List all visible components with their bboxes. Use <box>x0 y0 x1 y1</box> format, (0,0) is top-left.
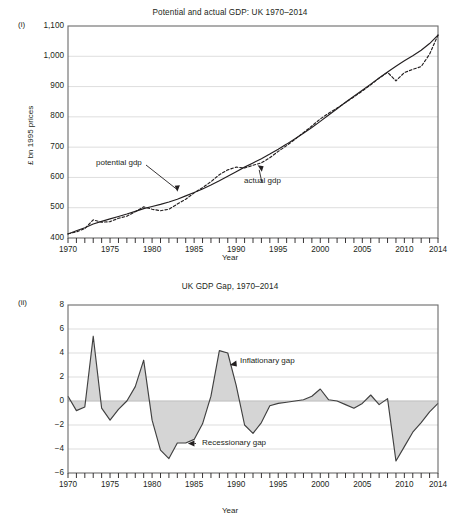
chart-i-annotation-actual-gdp: actual gdp <box>244 176 281 185</box>
chart-i-ytick-900: 900 <box>22 81 64 90</box>
chart-i-xtick-2000: 2000 <box>302 245 338 254</box>
chart-ii-ytick-0: 0 <box>24 396 64 405</box>
chart-ii-xtick-2005: 2005 <box>344 480 380 489</box>
chart-i-ytick-1100: 1,100 <box>22 21 64 30</box>
chart-ii-xtick-2000: 2000 <box>302 480 338 489</box>
chart-i-xtick-1985: 1985 <box>176 245 212 254</box>
chart-i-ytick-700: 700 <box>22 142 64 151</box>
chart-ii-xtick-2010: 2010 <box>386 480 422 489</box>
chart-i-ytick-500: 500 <box>22 202 64 211</box>
chart-ii-xtick-1985: 1985 <box>176 480 212 489</box>
chart-i-xtick-1990: 1990 <box>218 245 254 254</box>
chart-i-annotation-potential-gdp: potential gdp <box>96 158 142 167</box>
chart-i-canvas <box>0 0 460 268</box>
chart-ii-ytick-2: 2 <box>24 372 64 381</box>
chart-i-xtick-1995: 1995 <box>260 245 296 254</box>
chart-ii-annotation-inflationary-gap: Inflationary gap <box>240 356 295 365</box>
chart-i-xtick-2014: 2014 <box>420 245 456 254</box>
figure-container: Potential and actual GDP: UK 1970–2014 (… <box>0 0 460 528</box>
chart-ii-xtick-1975: 1975 <box>92 480 128 489</box>
chart-ii-ytick-neg2: −2 <box>24 420 64 429</box>
chart-i-ytick-1000: 1,000 <box>22 51 64 60</box>
chart-ii-canvas <box>0 268 460 528</box>
chart-ii-xtick-1970: 1970 <box>50 480 86 489</box>
chart-i-xtick-2005: 2005 <box>344 245 380 254</box>
chart-i-xtick-1975: 1975 <box>92 245 128 254</box>
chart-ii-ytick-6: 6 <box>24 324 64 333</box>
chart-ii-ytick-neg4: −4 <box>24 444 64 453</box>
chart-ii-xtick-2014: 2014 <box>420 480 456 489</box>
chart-ii-ytick-4: 4 <box>24 348 64 357</box>
chart-i-xtick-1970: 1970 <box>50 245 86 254</box>
chart-ii-xtick-1995: 1995 <box>260 480 296 489</box>
chart-ii-ytick-8: 8 <box>24 300 64 309</box>
chart-panel-i: Potential and actual GDP: UK 1970–2014 (… <box>0 0 460 268</box>
chart-i-ytick-600: 600 <box>22 172 64 181</box>
chart-ii-ytick-neg6: −6 <box>24 468 64 477</box>
chart-ii-xtick-1990: 1990 <box>218 480 254 489</box>
chart-ii-xtick-1980: 1980 <box>134 480 170 489</box>
chart-i-xtick-1980: 1980 <box>134 245 170 254</box>
chart-i-ytick-400: 400 <box>22 233 64 242</box>
chart-i-ytick-800: 800 <box>22 111 64 120</box>
chart-i-xtick-2010: 2010 <box>386 245 422 254</box>
chart-ii-annotation-recessionary-gap: Recessionary gap <box>202 438 266 447</box>
chart-panel-ii: UK GDP Gap, 1970–2014 (ii) Percent of Y*… <box>0 268 460 528</box>
